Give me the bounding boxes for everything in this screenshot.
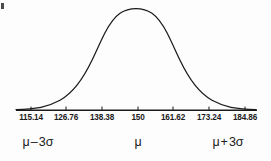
annotation-mu-minus-3-sigma: μ–3σ: [23, 134, 54, 150]
normal-distribution-figure: 115.14 126.76 138.38 150 161.62 173.24 1…: [0, 0, 271, 161]
annotation-mu: μ: [134, 134, 141, 150]
axis-tick-label-1: 115.14: [19, 113, 43, 123]
annotation-center-mu: μ: [134, 135, 141, 149]
axis-tick-label-3: 138.38: [90, 113, 114, 123]
axis-tick-label-4: 150: [131, 113, 144, 123]
axis-tick-label-2: 126.76: [54, 113, 78, 123]
annotation-left-sigma: 3σ: [39, 135, 54, 149]
axis-tick-label-7: 184.86: [233, 113, 257, 123]
annotation-mu-plus-3-sigma: μ+3σ: [212, 134, 243, 150]
annotation-right-sigma: 3σ: [229, 135, 244, 149]
gaussian-curve-path: [16, 9, 256, 110]
axis-tick-label-5: 161.62: [161, 113, 185, 123]
annotation-left-operator: –: [30, 135, 39, 149]
axis-tick-label-6: 173.24: [197, 113, 221, 123]
annotation-right-operator: +: [220, 135, 229, 149]
